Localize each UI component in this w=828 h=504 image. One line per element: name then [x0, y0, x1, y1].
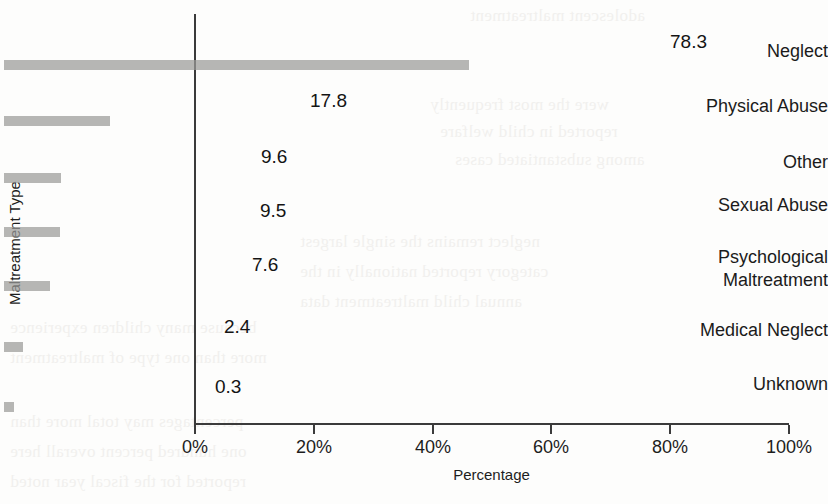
scan-bleedthrough-artifact: reported in child welfare [440, 122, 618, 142]
bar-other[interactable] [196, 140, 253, 173]
bar-shadow [4, 402, 14, 412]
scan-bleedthrough-artifact: annual child maltreatment data [300, 292, 522, 312]
x-axis-title: Percentage [194, 466, 789, 483]
bar-value-other: 9.6 [261, 146, 287, 168]
bar-chart-figure: adolescent maltreatment were the most fr… [0, 0, 828, 504]
y-axis-title: Maltreatment Type [6, 128, 23, 358]
x-tick-label-0: 0% [182, 437, 208, 458]
bar-physical-abuse[interactable] [196, 84, 302, 116]
bar-value-sexual-abuse: 9.5 [260, 200, 286, 222]
category-label-text: Unknown [753, 374, 828, 394]
x-tick-mark [669, 425, 671, 434]
x-tick-label-80: 80% [652, 437, 688, 458]
category-label-text-line2: Maltreatment [642, 269, 828, 292]
category-label-medical-neglect: Medical Neglect [642, 319, 828, 342]
bar-neglect[interactable] [196, 23, 661, 60]
bar-shadow [4, 116, 110, 126]
bar-value-neglect: 78.3 [670, 31, 707, 53]
x-tick-mark [194, 425, 196, 434]
bar-value-medical-neglect: 2.4 [224, 316, 250, 338]
x-tick-mark [550, 425, 552, 434]
category-label-unknown: Unknown [642, 373, 828, 396]
bar-medical-neglect[interactable] [196, 311, 215, 342]
scan-bleedthrough-artifact: category reported nationally in the [300, 262, 548, 282]
category-label-physical-abuse: Physical Abuse [642, 95, 828, 118]
scan-bleedthrough-artifact: more than one type of maltreatment [10, 348, 267, 368]
x-tick-mark [313, 425, 315, 434]
bar-sexual-abuse[interactable] [196, 193, 252, 227]
category-label-other: Other [642, 151, 828, 174]
bar-value-psychological-maltreatment: 7.6 [252, 254, 278, 276]
bar-unknown[interactable] [196, 371, 206, 402]
category-label-psychological-maltreatment: Psychological Maltreatment [642, 246, 828, 292]
bar-shadow [4, 342, 23, 352]
category-label-text: Physical Abuse [706, 96, 828, 116]
scan-bleedthrough-artifact: one hundred percent overall here [10, 442, 247, 462]
x-tick-label-40: 40% [415, 437, 451, 458]
bar-value-unknown: 0.3 [215, 376, 241, 398]
scan-bleedthrough-artifact: because many children experience [10, 318, 256, 338]
category-label-text: Other [783, 152, 828, 172]
category-label-text-line1: Psychological [642, 246, 828, 269]
x-tick-label-20: 20% [296, 437, 332, 458]
x-tick-mark [788, 425, 790, 434]
bar-value-physical-abuse: 17.8 [310, 90, 347, 112]
scan-bleedthrough-artifact: were the most frequently [430, 95, 609, 115]
category-label-text: Medical Neglect [700, 320, 828, 340]
x-axis-line [194, 423, 789, 425]
bar-shadow [4, 227, 60, 237]
bar-shadow [4, 281, 50, 291]
category-label-text: Sexual Abuse [718, 195, 828, 215]
bar-shadow [4, 60, 469, 70]
category-label-text: Neglect [767, 41, 828, 61]
x-tick-label-60: 60% [533, 437, 569, 458]
scan-bleedthrough-artifact: percentages may total more than [10, 412, 243, 432]
bar-psychological-maltreatment[interactable] [196, 247, 242, 281]
x-tick-label-100: 100% [766, 437, 812, 458]
scan-bleedthrough-artifact: among substantiated cases [455, 150, 644, 170]
bar-shadow [4, 173, 61, 183]
scan-bleedthrough-artifact: neglect remains the single largest [300, 232, 540, 252]
x-tick-mark [432, 425, 434, 434]
category-label-sexual-abuse: Sexual Abuse [642, 194, 828, 217]
